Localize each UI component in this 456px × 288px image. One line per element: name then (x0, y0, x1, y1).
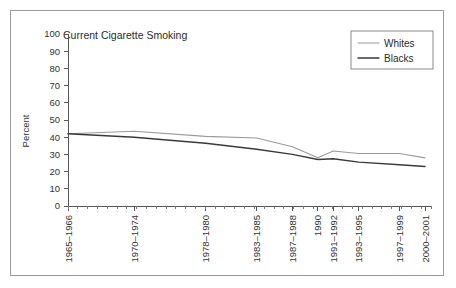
y-axis-title: Percent (20, 114, 31, 147)
x-axis-ticks: 1965–19661970–19741978–19801983–19851987… (63, 206, 431, 263)
series-line-whites (68, 131, 425, 158)
x-tick-label: 1987–1988 (287, 215, 298, 263)
x-tick-label: 1983–1985 (251, 215, 262, 263)
y-tick-label: 60 (49, 97, 60, 108)
y-tick-label: 90 (49, 46, 60, 57)
x-tick-label: 1970–1974 (129, 215, 140, 263)
y-tick-label: 0 (55, 200, 60, 211)
y-tick-label: 100 (44, 28, 60, 39)
y-tick-label: 20 (49, 166, 60, 177)
x-tick-label: 2000–2001 (420, 215, 431, 263)
x-tick-label: 1997–1999 (394, 215, 405, 263)
legend-label-whites: Whites (384, 38, 415, 49)
y-tick-label: 10 (49, 183, 60, 194)
x-tick-label: 1990 (312, 215, 323, 236)
chart-title: Current Cigarette Smoking (63, 29, 187, 41)
chart-figure-frame: Current Cigarette Smoking Percent 010203… (10, 10, 444, 276)
y-tick-label: 30 (49, 149, 60, 160)
y-tick-label: 50 (49, 114, 60, 125)
y-axis-ticks: 0102030405060708090100 (44, 28, 68, 211)
line-chart: Current Cigarette Smoking Percent 010203… (11, 11, 443, 275)
x-tick-label: 1978–1980 (200, 215, 211, 263)
y-tick-label: 70 (49, 80, 60, 91)
y-tick-label: 40 (49, 132, 60, 143)
chart-legend: Whites Blacks (351, 31, 433, 69)
x-tick-label: 1991–1992 (328, 215, 339, 263)
y-tick-label: 80 (49, 63, 60, 74)
x-tick-label: 1965–1966 (63, 215, 74, 263)
data-series-group (68, 131, 425, 166)
series-line-blacks (68, 134, 425, 167)
legend-label-blacks: Blacks (384, 53, 413, 64)
x-tick-label: 1993–1995 (353, 215, 364, 263)
